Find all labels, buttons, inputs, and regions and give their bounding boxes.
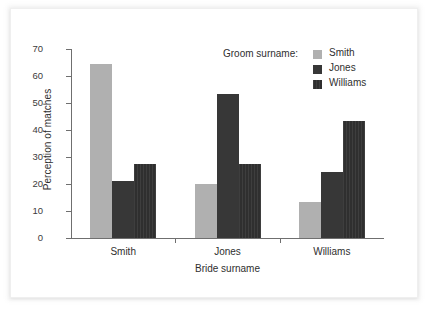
- x-tick-mark: [280, 238, 281, 243]
- bar-smith-smith[interactable]: [90, 64, 112, 238]
- y-tick-label: 10: [17, 206, 43, 216]
- y-tick-label: 40: [17, 125, 43, 135]
- x-tick-mark: [175, 238, 176, 243]
- y-tick-mark: [66, 238, 71, 239]
- x-group-label-smith: Smith: [71, 246, 175, 257]
- x-axis-title: Bride surname: [71, 263, 384, 274]
- y-tick-label: 60: [17, 71, 43, 81]
- bar-williams-williams[interactable]: [343, 121, 365, 238]
- bar-smith-jones[interactable]: [112, 181, 134, 238]
- bar-jones-smith[interactable]: [195, 184, 217, 238]
- y-tick-label: 70: [17, 44, 43, 54]
- legend-label-smith: Smith: [329, 47, 355, 59]
- legend-swatch-icon-jones: [313, 65, 322, 74]
- y-tick-label: 30: [17, 152, 43, 162]
- legend-swatch-icon-williams: [313, 80, 322, 89]
- bar-smith-williams[interactable]: [134, 164, 156, 238]
- figure-card: 010203040506070 SmithJonesWilliams Perce…: [10, 8, 418, 298]
- legend-label-williams: Williams: [329, 77, 366, 89]
- x-group-label-williams: Williams: [280, 246, 384, 257]
- bar-williams-jones[interactable]: [321, 172, 343, 238]
- y-axis-title: Perception of matches: [42, 45, 53, 235]
- y-tick-label: 0: [17, 233, 43, 243]
- x-axis-line: [71, 238, 384, 239]
- legend-label-jones: Jones: [329, 62, 356, 74]
- chart-plot-area: 010203040506070 SmithJonesWilliams Perce…: [11, 9, 419, 299]
- legend-swatch-icon-smith: [313, 50, 322, 59]
- bar-williams-smith[interactable]: [299, 202, 321, 238]
- bar-jones-jones[interactable]: [217, 94, 239, 238]
- x-group-label-jones: Jones: [175, 246, 279, 257]
- y-tick-label: 50: [17, 98, 43, 108]
- y-tick-label: 20: [17, 179, 43, 189]
- bar-jones-williams[interactable]: [239, 164, 261, 238]
- legend-title: Groom surname:: [223, 48, 298, 59]
